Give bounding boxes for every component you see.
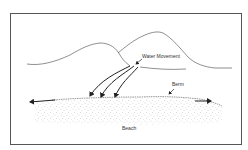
wave-right [118, 32, 232, 68]
beach-label: Beach [122, 126, 136, 131]
berm-pointer [169, 89, 174, 94]
water-movement-label: Water Movement [142, 54, 180, 59]
water-movement-pointer [136, 59, 142, 64]
beach-sand [34, 97, 222, 125]
wave-left [27, 43, 130, 66]
water-arrow-1 [90, 66, 130, 96]
berm-label: Berm [172, 82, 184, 87]
wave-trough [140, 67, 186, 69]
